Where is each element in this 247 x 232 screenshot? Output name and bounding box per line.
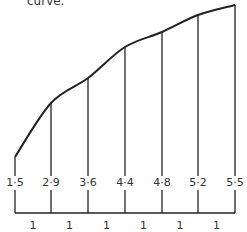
strip-width-label: 1 (140, 219, 147, 232)
ordinate-label: 4·4 (116, 176, 134, 189)
strip-width-label: 1 (213, 219, 220, 232)
ordinate-label: 2·9 (42, 176, 60, 189)
strip-width-label: 1 (177, 219, 184, 232)
ordinate-label: 3·6 (79, 176, 97, 189)
ordinate-label: 1·5 (6, 176, 24, 189)
strip-width-label: 1 (30, 219, 37, 232)
area-under-curve-diagram: 1·52·93·64·44·85·25·5111111 (0, 0, 247, 232)
strip-width-label: 1 (103, 219, 110, 232)
ordinate-label: 5·5 (226, 176, 244, 189)
ordinate-label: 5·2 (189, 176, 207, 189)
strip-width-label: 1 (66, 219, 73, 232)
ordinate-label: 4·8 (153, 176, 171, 189)
